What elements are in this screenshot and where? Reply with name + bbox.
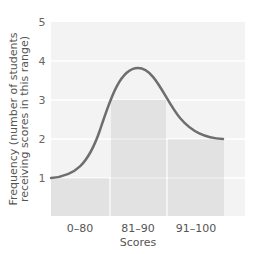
histogram-chart: 1 2 3 4 5 Frequency (number of students … xyxy=(0,0,254,254)
y-axis-ticks: 1 2 3 4 5 xyxy=(39,16,46,185)
y-axis-label: Frequency (number of students receiving … xyxy=(7,32,31,205)
x-axis-categories: 0–80 81–90 91–100 xyxy=(67,222,217,235)
y-tick-1: 1 xyxy=(39,172,46,185)
y-axis-label-line2: receiving scores in this range) xyxy=(18,36,31,202)
y-tick-5: 5 xyxy=(39,16,46,29)
x-category-81-90: 81–90 xyxy=(121,222,155,235)
x-axis-label: Scores xyxy=(120,236,157,249)
x-category-91-100: 91–100 xyxy=(176,222,217,235)
y-tick-3: 3 xyxy=(39,94,46,107)
bar-81-90 xyxy=(111,100,166,216)
y-tick-4: 4 xyxy=(39,55,46,68)
x-category-0-80: 0–80 xyxy=(67,222,94,235)
y-tick-2: 2 xyxy=(39,133,46,146)
bar-0-80 xyxy=(51,178,109,216)
